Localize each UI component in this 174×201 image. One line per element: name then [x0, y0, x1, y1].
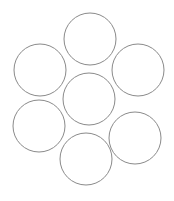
- circle-diagram: [0, 0, 174, 201]
- circle-bottom: [60, 133, 112, 185]
- circle-top: [64, 13, 116, 65]
- circle-lower-left: [13, 100, 65, 152]
- circle-upper-right: [112, 44, 164, 96]
- circle-center: [63, 73, 115, 125]
- circle-upper-left: [14, 44, 66, 96]
- circle-lower-right: [109, 112, 161, 164]
